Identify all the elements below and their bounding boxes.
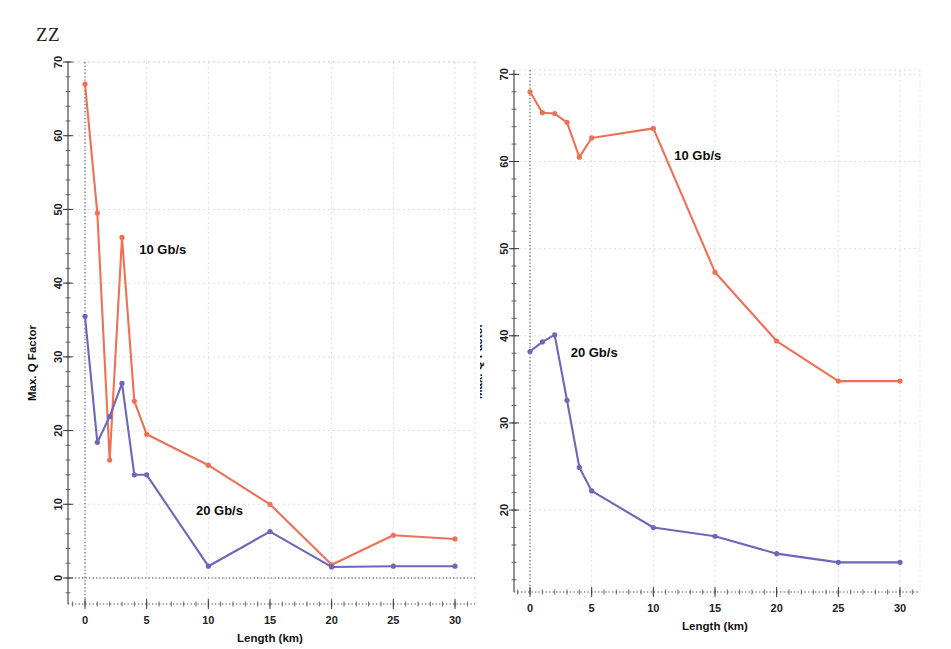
x-tick-label: 20 [771, 602, 783, 614]
y-tick-label: 60 [52, 130, 64, 142]
x-tick-label: 15 [264, 614, 276, 626]
series-point [206, 463, 211, 468]
y-tick-label: 70 [52, 56, 64, 68]
series-point [132, 398, 137, 403]
figure-root: ZZ 010203040506070051015202530Length (km… [0, 0, 951, 649]
series-point [527, 89, 532, 94]
y-tick-label: 10 [52, 498, 64, 510]
y-tick-label: 50 [52, 203, 64, 215]
series-point [577, 155, 582, 160]
x-tick-label: 5 [589, 602, 595, 614]
series-point [144, 432, 149, 437]
y-tick-label: 70 [498, 68, 510, 80]
series-point [82, 314, 87, 319]
series-point [552, 111, 557, 116]
axes [63, 62, 475, 609]
series-point [552, 332, 557, 337]
series-point [540, 339, 545, 344]
x-tick-label: 0 [82, 614, 88, 626]
series-point [527, 349, 532, 354]
y-axis-title: Max. Q Factor [480, 322, 484, 399]
series-point [107, 414, 112, 419]
x-tick-label: 10 [202, 614, 214, 626]
series-point [144, 472, 149, 477]
y-tick-label: 40 [498, 330, 510, 342]
series-point [651, 126, 656, 131]
y-tick-label: 50 [498, 243, 510, 255]
series-point [107, 457, 112, 462]
labels: 203040506070051015202530Length (km)Max. … [480, 68, 906, 632]
x-tick-label: 30 [894, 602, 906, 614]
y-tick-label: 40 [52, 277, 64, 289]
series-point [836, 560, 841, 565]
chart-svg-right: 203040506070051015202530Length (km)Max. … [480, 0, 951, 649]
series-point [577, 465, 582, 470]
y-tick-label: 30 [498, 417, 510, 429]
x-tick-label: 10 [647, 602, 659, 614]
series-line-20-gb-s [530, 335, 900, 562]
series-annotation-10-gb-s: 10 Gb/s [139, 242, 186, 257]
x-tick-label: 20 [326, 614, 338, 626]
chart-panel-right: 203040506070051015202530Length (km)Max. … [480, 0, 951, 649]
chart-panel-left: 010203040506070051015202530Length (km)Ma… [0, 0, 480, 649]
series-point [712, 270, 717, 275]
y-tick-label: 60 [498, 155, 510, 167]
x-tick-label: 0 [527, 602, 533, 614]
series-point [95, 440, 100, 445]
x-tick-label: 15 [709, 602, 721, 614]
series-point [712, 534, 717, 539]
series-point [897, 379, 902, 384]
series-point [329, 564, 334, 569]
series-point [836, 379, 841, 384]
series-point [651, 525, 656, 530]
y-axis-title: Max. Q Factor [26, 324, 38, 401]
series-point [774, 338, 779, 343]
series-point [391, 564, 396, 569]
x-axis-title: Length (km) [682, 620, 748, 632]
series-point [589, 135, 594, 140]
series-point [452, 536, 457, 541]
series-point [589, 488, 594, 493]
series-point [540, 110, 545, 115]
series-point [119, 235, 124, 240]
series-point [774, 551, 779, 556]
series-point [452, 564, 457, 569]
y-tick-label: 0 [52, 575, 64, 581]
x-axis-title: Length (km) [237, 632, 303, 644]
data-series [82, 82, 457, 570]
series-point [95, 211, 100, 216]
y-tick-label: 30 [52, 351, 64, 363]
series-point [267, 502, 272, 507]
series-point [564, 398, 569, 403]
series-point [82, 82, 87, 87]
x-tick-label: 25 [832, 602, 844, 614]
series-point [897, 560, 902, 565]
series-point [119, 381, 124, 386]
x-tick-label: 5 [144, 614, 150, 626]
y-tick-label: 20 [52, 424, 64, 436]
series-point [267, 529, 272, 534]
series-annotation-20-gb-s: 20 Gb/s [196, 503, 243, 518]
x-tick-label: 25 [387, 614, 399, 626]
series-annotation-20-gb-s: 20 Gb/s [571, 345, 618, 360]
series-point [564, 120, 569, 125]
x-tick-label: 30 [449, 614, 461, 626]
chart-svg-left: 010203040506070051015202530Length (km)Ma… [0, 0, 480, 649]
series-point [132, 472, 137, 477]
series-point [391, 533, 396, 538]
y-tick-label: 20 [498, 504, 510, 516]
series-point [206, 564, 211, 569]
series-annotation-10-gb-s: 10 Gb/s [674, 148, 721, 163]
